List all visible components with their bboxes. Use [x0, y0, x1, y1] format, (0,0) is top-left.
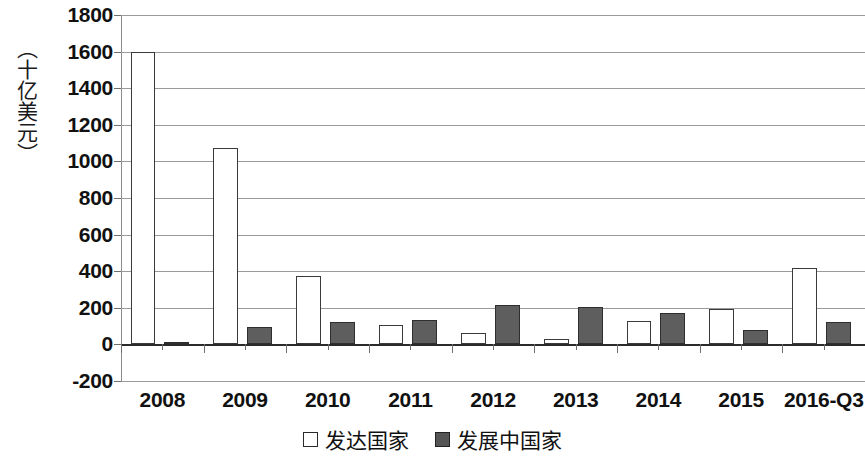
- bar-developed-2013: [544, 339, 569, 344]
- bar-chart: （十亿美元） 180016001400120010008006004002000…: [0, 0, 865, 460]
- x-axis-tick-label: 2016-Q3: [782, 388, 865, 420]
- bar-groups: [121, 15, 865, 381]
- bar-developed-2008: [131, 52, 156, 345]
- y-axis-tick-label: 1200: [67, 113, 113, 137]
- x-axis-tick-label: 2010: [286, 388, 369, 420]
- bar-group: [700, 15, 783, 381]
- x-axis-tick-mark: [121, 344, 122, 353]
- y-axis-tick-mark: [114, 308, 121, 309]
- y-axis-tick-label: 1800: [67, 3, 113, 27]
- x-axis-tick-mark: [369, 344, 370, 353]
- bar-group: [452, 15, 535, 381]
- x-axis-minor-tick-mark: [741, 344, 742, 350]
- x-axis-minor-tick-mark: [576, 344, 577, 350]
- x-axis-tick-label: 2013: [534, 388, 617, 420]
- y-axis-tick-label: 200: [79, 296, 113, 320]
- plot-area: [121, 15, 865, 381]
- bar-developed-2016-Q3: [792, 268, 817, 344]
- bar-developing-2011: [412, 320, 437, 345]
- x-axis-tick-label: 2011: [369, 388, 452, 420]
- legend-label-developed: 发达国家: [325, 424, 409, 454]
- bar-developing-2016-Q3: [826, 322, 851, 344]
- bar-group: [617, 15, 700, 381]
- y-axis-tick-label: 600: [79, 223, 113, 247]
- y-axis-tick-label: 0: [102, 332, 113, 356]
- bar-group: [369, 15, 452, 381]
- bar-developed-2014: [627, 321, 652, 345]
- y-axis-tick-labels: 180016001400120010008006004002000-200: [36, 0, 121, 395]
- x-axis-tick-label: 2015: [700, 388, 783, 420]
- gridline: [121, 381, 865, 382]
- bar-developing-2014: [660, 313, 685, 344]
- legend-swatch-filled-square-icon: [435, 432, 450, 447]
- y-axis-tick-mark: [114, 344, 121, 345]
- y-axis-tick-mark: [114, 235, 121, 236]
- x-axis-tick-mark: [204, 344, 205, 353]
- y-axis-tick-label: 1000: [67, 149, 113, 173]
- x-axis-tick-label: 2012: [452, 388, 535, 420]
- x-axis-tick-mark: [782, 344, 783, 353]
- bar-group: [121, 15, 204, 381]
- y-axis-tick-label: 800: [79, 186, 113, 210]
- y-axis-tick-mark: [114, 125, 121, 126]
- x-axis-minor-tick-mark: [493, 344, 494, 350]
- legend-label-developing: 发展中国家: [457, 424, 562, 454]
- legend-swatch-open-square-icon: [303, 432, 318, 447]
- bar-developing-2013: [578, 307, 603, 345]
- x-axis-minor-tick-mark: [328, 344, 329, 350]
- bar-developing-2009: [247, 327, 272, 344]
- x-axis-minor-tick-mark: [245, 344, 246, 350]
- x-axis-tick-mark: [286, 344, 287, 353]
- y-axis-tick-mark: [114, 15, 121, 16]
- x-axis-tick-label: 2014: [617, 388, 700, 420]
- bar-group: [286, 15, 369, 381]
- x-axis-tick-labels: 200820092010201120122013201420152016-Q3: [121, 388, 865, 420]
- legend-item-developed[interactable]: 发达国家: [303, 424, 409, 454]
- bar-developed-2015: [709, 309, 734, 345]
- y-axis-tick-label: 1400: [67, 76, 113, 100]
- y-axis-tick-mark: [114, 88, 121, 89]
- y-axis-tick-mark: [114, 161, 121, 162]
- x-axis-tick-mark: [534, 344, 535, 353]
- y-axis-tick-mark: [114, 271, 121, 272]
- bar-developed-2010: [296, 276, 321, 345]
- y-axis-tick-label: -200: [72, 369, 113, 393]
- y-axis-tick-label: 400: [79, 259, 113, 283]
- x-axis-tick-mark: [700, 344, 701, 353]
- bar-developing-2010: [330, 322, 355, 345]
- x-axis-tick-mark: [452, 344, 453, 353]
- x-axis-tick-label: 2008: [121, 388, 204, 420]
- y-axis-tick-mark: [114, 52, 121, 53]
- x-axis-minor-tick-mark: [824, 344, 825, 350]
- x-axis-minor-tick-mark: [410, 344, 411, 350]
- bar-group: [782, 15, 865, 381]
- y-axis-tick-mark: [114, 381, 121, 382]
- bar-developed-2012: [461, 333, 486, 345]
- bar-group: [534, 15, 617, 381]
- y-axis-tick-mark: [114, 198, 121, 199]
- x-axis-tick-mark: [617, 344, 618, 353]
- bar-developing-2008: [164, 342, 189, 344]
- y-axis-tick-label: 1600: [67, 40, 113, 64]
- legend-item-developing[interactable]: 发展中国家: [435, 424, 562, 454]
- x-axis-minor-tick-mark: [658, 344, 659, 350]
- bar-developing-2012: [495, 305, 520, 344]
- y-axis-title: （十亿美元）: [2, 38, 36, 233]
- bar-developing-2015: [743, 330, 768, 345]
- x-axis-minor-tick-mark: [162, 344, 163, 350]
- x-axis-tick-label: 2009: [204, 388, 287, 420]
- bar-group: [204, 15, 287, 381]
- bar-developed-2011: [379, 325, 404, 344]
- chart-legend: 发达国家 发展中国家: [0, 424, 865, 454]
- bar-developed-2009: [213, 148, 238, 345]
